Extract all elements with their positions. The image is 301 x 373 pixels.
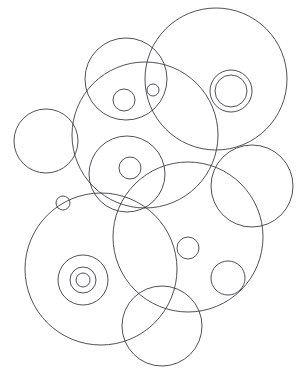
center-medium-circle	[89, 136, 165, 212]
top-middle-inner-circle	[113, 89, 135, 111]
bottom-left-large-circle	[25, 193, 177, 345]
top-right-ring-inner	[215, 75, 247, 107]
top-right-ring-outer	[210, 70, 252, 112]
left-circle	[14, 109, 78, 173]
right-middle-circle	[211, 145, 293, 227]
bottom-middle-circle	[122, 286, 202, 366]
bottom-left-ring-outer	[58, 255, 108, 305]
drawing-canvas	[0, 0, 301, 373]
top-middle-circle	[85, 38, 167, 120]
bottom-right-small-circle	[177, 237, 199, 259]
bottom-left-ring-middle	[70, 267, 96, 293]
top-middle-tiny-circle	[147, 84, 159, 96]
top-right-large-circle	[145, 8, 287, 150]
center-inner-circle	[119, 157, 141, 179]
bottom-right-medium-circle	[211, 261, 245, 295]
overlapping-circles-figure	[0, 0, 301, 373]
bottom-left-ring-inner	[76, 273, 90, 287]
